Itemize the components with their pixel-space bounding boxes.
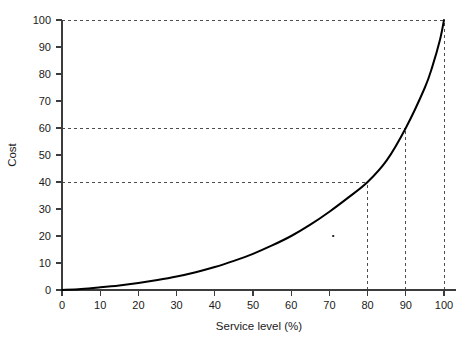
- y-axis-title: Cost: [6, 142, 18, 166]
- y-tick-label-80: 80: [39, 68, 51, 80]
- x-tick-label-90: 90: [400, 299, 412, 311]
- y-tick-label-50: 50: [39, 149, 51, 161]
- x-axis-title: Service level (%): [216, 320, 302, 332]
- stray-speck: [332, 235, 334, 237]
- y-tick-label-20: 20: [39, 230, 51, 242]
- y-tick-label-0: 0: [45, 284, 51, 296]
- x-tick-label-80: 80: [361, 299, 373, 311]
- x-tick-label-40: 40: [209, 299, 221, 311]
- x-tick-label-60: 60: [285, 299, 297, 311]
- y-tick-label-40: 40: [39, 176, 51, 188]
- x-tick-label-30: 30: [170, 299, 182, 311]
- x-tick-label-100: 100: [435, 299, 453, 311]
- x-tick-label-70: 70: [323, 299, 335, 311]
- y-tick-label-70: 70: [39, 95, 51, 107]
- cost-vs-service-level-chart: 0102030405060708090100 01020304050607080…: [0, 0, 468, 338]
- y-tick-label-30: 30: [39, 203, 51, 215]
- chart-container: 0102030405060708090100 01020304050607080…: [0, 0, 468, 338]
- y-tick-label-90: 90: [39, 41, 51, 53]
- chart-background: [0, 0, 468, 338]
- x-tick-label-20: 20: [132, 299, 144, 311]
- annotation-group: [332, 235, 334, 237]
- x-tick-label-0: 0: [59, 299, 65, 311]
- y-tick-label-10: 10: [39, 257, 51, 269]
- y-tick-label-100: 100: [33, 14, 51, 26]
- x-tick-label-10: 10: [94, 299, 106, 311]
- y-tick-label-60: 60: [39, 122, 51, 134]
- x-tick-label-50: 50: [247, 299, 259, 311]
